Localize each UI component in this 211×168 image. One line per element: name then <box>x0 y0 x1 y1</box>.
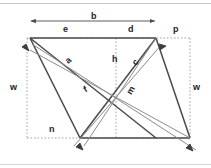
label-e: e <box>63 25 68 34</box>
label-w-left: w <box>10 83 17 92</box>
quadrilateral-outline <box>30 38 190 138</box>
tick-top-left <box>22 44 29 51</box>
bounding-box-guides <box>27 38 190 138</box>
label-d: d <box>128 25 134 34</box>
geometry-canvas <box>0 0 211 168</box>
diagonal-c <box>80 38 156 138</box>
label-w-right: w <box>193 83 200 92</box>
label-p: p <box>173 25 179 34</box>
diagonals <box>30 38 156 138</box>
diagonal-a <box>30 38 156 138</box>
edge-right <box>156 38 190 138</box>
scan-rules <box>0 4 211 165</box>
label-h: h <box>112 55 118 64</box>
geometry-figure: b e d p a h c w w f m n <box>0 0 211 168</box>
label-n: n <box>49 125 55 134</box>
tick-top-right <box>159 44 166 50</box>
edge-left <box>30 38 80 138</box>
tick-bottom-right <box>186 144 193 151</box>
label-b: b <box>91 12 97 21</box>
tick-bottom-left <box>76 143 83 150</box>
